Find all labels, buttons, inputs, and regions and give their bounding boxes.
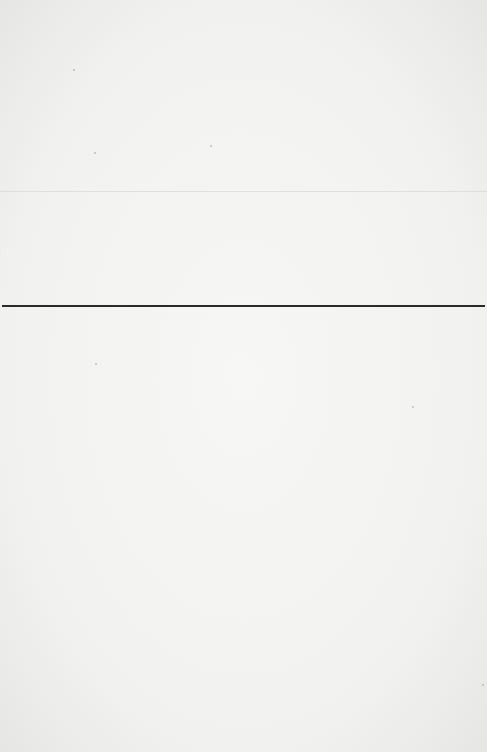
- paper-speck: [95, 363, 97, 365]
- paper-speck: [412, 406, 414, 408]
- horizontal-rule: [2, 305, 485, 307]
- paper-speck: [94, 152, 96, 154]
- paper-speck: [73, 69, 75, 71]
- paper-speck: [210, 145, 212, 147]
- paper-fold-line: [0, 191, 487, 192]
- blank-page: [0, 0, 487, 752]
- paper-speck: [482, 684, 484, 686]
